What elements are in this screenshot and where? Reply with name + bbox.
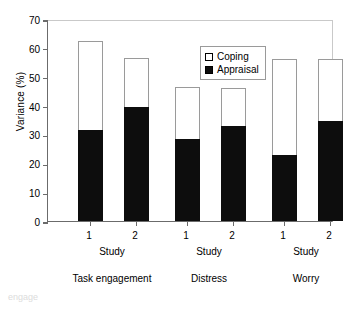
y-tick-label: 40 xyxy=(29,101,40,114)
chart-legend: Coping Appraisal xyxy=(200,46,266,80)
legend-label-coping: Coping xyxy=(217,51,249,62)
y-tick-mark xyxy=(43,78,48,79)
y-tick-label: 20 xyxy=(29,158,40,171)
x-axis-tick xyxy=(136,221,137,226)
x-label-study-number: 1 xyxy=(268,230,298,241)
x-axis-tick xyxy=(90,221,91,226)
bar-stacked xyxy=(78,41,103,221)
bar-segment-appraisal xyxy=(175,139,200,221)
bar-stacked xyxy=(124,58,149,221)
x-label-study-word: Study xyxy=(276,246,336,257)
plot-area: Coping Appraisal 706050403020100 xyxy=(47,20,333,222)
legend-swatch-coping-icon xyxy=(205,53,213,61)
y-tick-mark xyxy=(43,136,48,137)
scan-artifact-text: engage xyxy=(8,292,38,302)
x-label-study-number: 2 xyxy=(217,230,247,241)
y-tick-mark xyxy=(43,107,48,108)
bar-segment-appraisal xyxy=(124,107,149,221)
x-label-study-number: 2 xyxy=(120,230,150,241)
legend-item-appraisal: Appraisal xyxy=(205,63,259,76)
y-tick-label: 30 xyxy=(29,129,40,142)
x-axis-tick xyxy=(233,221,234,226)
x-group-label: Task engagement xyxy=(67,272,157,285)
y-tick-label: 60 xyxy=(29,43,40,56)
bar-segment-appraisal xyxy=(221,126,246,221)
bar-stacked xyxy=(318,59,343,221)
x-group-label: Distress xyxy=(164,272,254,285)
y-tick-mark xyxy=(43,194,48,195)
x-axis-tick xyxy=(187,221,188,226)
x-label-study-word: Study xyxy=(82,246,142,257)
bar-segment-appraisal xyxy=(318,121,343,221)
x-label-study-number: 1 xyxy=(74,230,104,241)
x-label-study-word: Study xyxy=(179,246,239,257)
bar-segment-appraisal xyxy=(272,155,297,221)
x-axis-tick xyxy=(330,221,331,226)
y-tick-label: 50 xyxy=(29,72,40,85)
legend-swatch-appraisal-icon xyxy=(205,66,213,74)
legend-label-appraisal: Appraisal xyxy=(217,64,259,75)
bar-segment-appraisal xyxy=(78,130,103,221)
y-tick-label: 0 xyxy=(34,216,40,229)
y-tick-mark xyxy=(43,165,48,166)
y-tick-label: 70 xyxy=(29,14,40,27)
bar-stacked xyxy=(175,87,200,221)
y-tick-mark xyxy=(43,49,48,50)
y-tick-label: 10 xyxy=(29,187,40,200)
x-group-label: Worry xyxy=(261,272,351,285)
legend-item-coping: Coping xyxy=(205,50,259,63)
x-label-study-number: 1 xyxy=(171,230,201,241)
bar-stacked xyxy=(272,59,297,221)
bar-stacked xyxy=(221,88,246,221)
y-tick-mark xyxy=(43,20,48,21)
y-axis-title: Variance (%) xyxy=(15,52,26,152)
x-axis-tick xyxy=(284,221,285,226)
y-tick-mark xyxy=(43,222,48,223)
figure-stacked-bar-chart: Variance (%) Coping Appraisal 7060504030… xyxy=(0,0,353,312)
x-label-study-number: 2 xyxy=(314,230,344,241)
